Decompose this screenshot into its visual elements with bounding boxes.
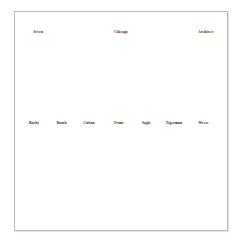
middle-label-7: Weese — [199, 119, 209, 127]
document-panel: Seven Chicago Architect Bushy Booth Cuba… — [14, 11, 228, 231]
top-label-row: Seven Chicago Architect — [15, 28, 227, 36]
top-label-2: Chicago — [114, 28, 128, 36]
middle-label-6: Tigerman — [166, 119, 182, 127]
middle-label-2: Booth — [57, 119, 67, 127]
middle-label-4: Front — [114, 119, 123, 127]
middle-label-1: Bushy — [29, 119, 39, 127]
document-panel-inner: Seven Chicago Architect Bushy Booth Cuba… — [15, 12, 227, 230]
middle-label-row: Bushy Booth Cuban Front Sagle Tigerman W… — [15, 119, 227, 127]
page-root: Seven Chicago Architect Bushy Booth Cuba… — [0, 0, 240, 244]
middle-label-3: Cuban — [84, 119, 95, 127]
middle-label-5: Sagle — [142, 119, 151, 127]
top-label-3: Architect — [198, 28, 214, 36]
top-label-1: Seven — [33, 28, 43, 36]
